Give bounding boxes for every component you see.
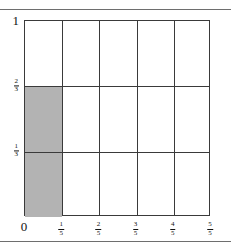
fraction-numerator: 1 xyxy=(14,144,20,151)
fraction-denominator: 5 xyxy=(170,229,176,237)
gridline-vertical xyxy=(174,21,175,215)
fraction-denominator: 5 xyxy=(58,229,64,237)
x-tick-0: 0 xyxy=(21,220,28,233)
x-tick-5-5: 55 xyxy=(207,220,213,237)
fraction-denominator: 5 xyxy=(133,229,139,237)
fraction-numerator: 4 xyxy=(170,221,176,228)
gridline-vertical xyxy=(137,21,138,215)
gridline-vertical xyxy=(62,21,63,215)
x-tick-1-5: 15 xyxy=(58,220,64,237)
fraction-numerator: 1 xyxy=(58,221,64,228)
x-tick-3-5: 35 xyxy=(133,220,139,237)
y-tick-2-3: 23 xyxy=(14,77,20,94)
fraction-denominator: 5 xyxy=(96,229,102,237)
y-tick-1: 1 xyxy=(13,14,20,27)
y-tick-1-3-fraction: 13 xyxy=(14,144,20,160)
gridline-vertical xyxy=(99,21,100,215)
unit-square-grid-figure: 0152535455513231 xyxy=(0,0,231,250)
fraction-numerator: 2 xyxy=(96,221,102,228)
fraction-numerator: 2 xyxy=(14,78,20,85)
fraction-denominator: 3 xyxy=(14,86,20,94)
y-tick-2-3-fraction: 23 xyxy=(14,78,20,94)
fraction-numerator: 3 xyxy=(133,221,139,228)
x-tick-2-5-fraction: 25 xyxy=(96,221,102,237)
x-tick-1-5-fraction: 15 xyxy=(58,221,64,237)
plot-area xyxy=(24,20,210,216)
fraction-denominator: 3 xyxy=(14,151,20,159)
x-tick-4-5: 45 xyxy=(170,220,176,237)
x-tick-2-5: 25 xyxy=(96,220,102,237)
y-tick-1-3: 13 xyxy=(14,142,20,159)
x-tick-5-5-fraction: 55 xyxy=(207,221,213,237)
x-tick-4-5-fraction: 45 xyxy=(170,221,176,237)
gridline-horizontal xyxy=(25,86,209,87)
fraction-denominator: 5 xyxy=(207,229,213,237)
gridline-horizontal xyxy=(25,152,209,153)
x-tick-3-5-fraction: 35 xyxy=(133,221,139,237)
fraction-numerator: 5 xyxy=(207,221,213,228)
